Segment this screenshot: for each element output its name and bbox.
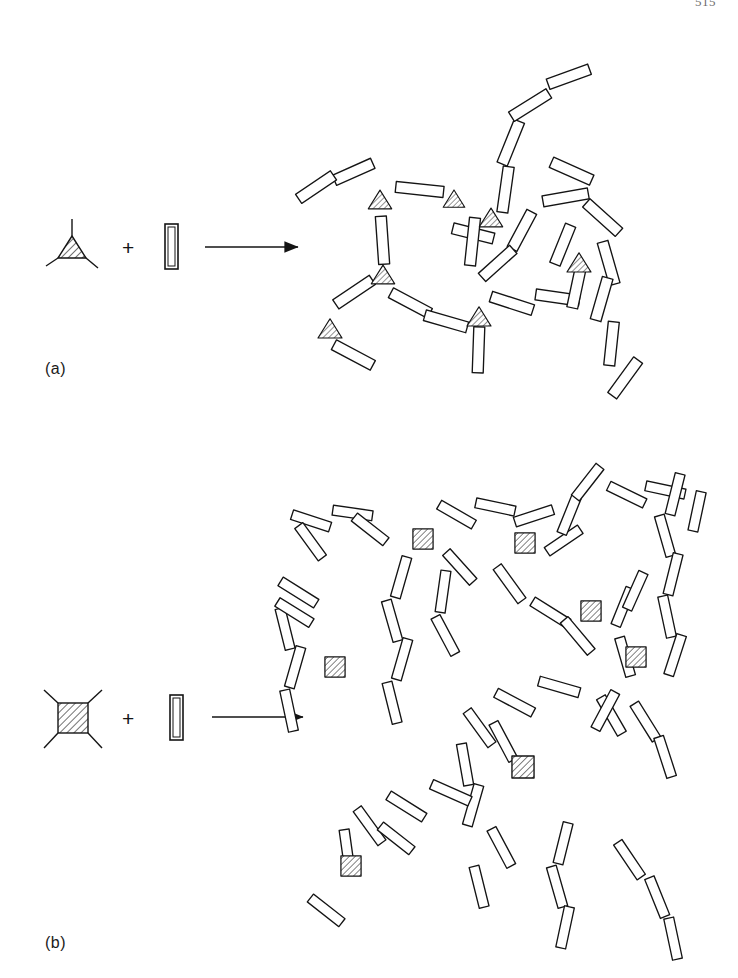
trifunctional-monomer-symbol: [46, 219, 98, 268]
page-number: 515: [695, 0, 716, 10]
panel-b-reactants: +: [44, 690, 303, 748]
tetrafunctional-monomer-symbol: [44, 690, 102, 748]
plus-sign-a: +: [122, 236, 134, 259]
triangle-junctions-a: [318, 190, 591, 338]
junction-node: [581, 601, 601, 621]
junction-node: [443, 190, 465, 207]
junction-node: [413, 529, 433, 549]
panel-label-b: (b): [45, 934, 66, 952]
junction-node: [567, 253, 591, 272]
junction-node: [371, 265, 394, 284]
junction-node: [325, 657, 345, 677]
panel-b-network: [275, 463, 706, 960]
junction-node: [515, 533, 535, 553]
figure-root: 515 +: [0, 0, 738, 978]
panel-label-a: (a): [45, 360, 66, 378]
junction-node: [341, 856, 361, 876]
junction-node: [467, 307, 491, 326]
rod-chains-b: [275, 463, 706, 960]
panel-a-network: [296, 64, 643, 399]
junction-node: [368, 190, 391, 209]
plus-sign-b: +: [122, 707, 134, 730]
rod-chains-a: [296, 64, 643, 399]
junction-node: [318, 319, 342, 338]
diagram-canvas: +: [0, 0, 738, 978]
junction-node: [512, 756, 534, 778]
panel-a-reactants: +: [46, 219, 298, 269]
junction-node: [626, 647, 646, 667]
bifunctional-linker-symbol-b: [170, 695, 183, 740]
bifunctional-linker-symbol-a: [165, 224, 178, 269]
